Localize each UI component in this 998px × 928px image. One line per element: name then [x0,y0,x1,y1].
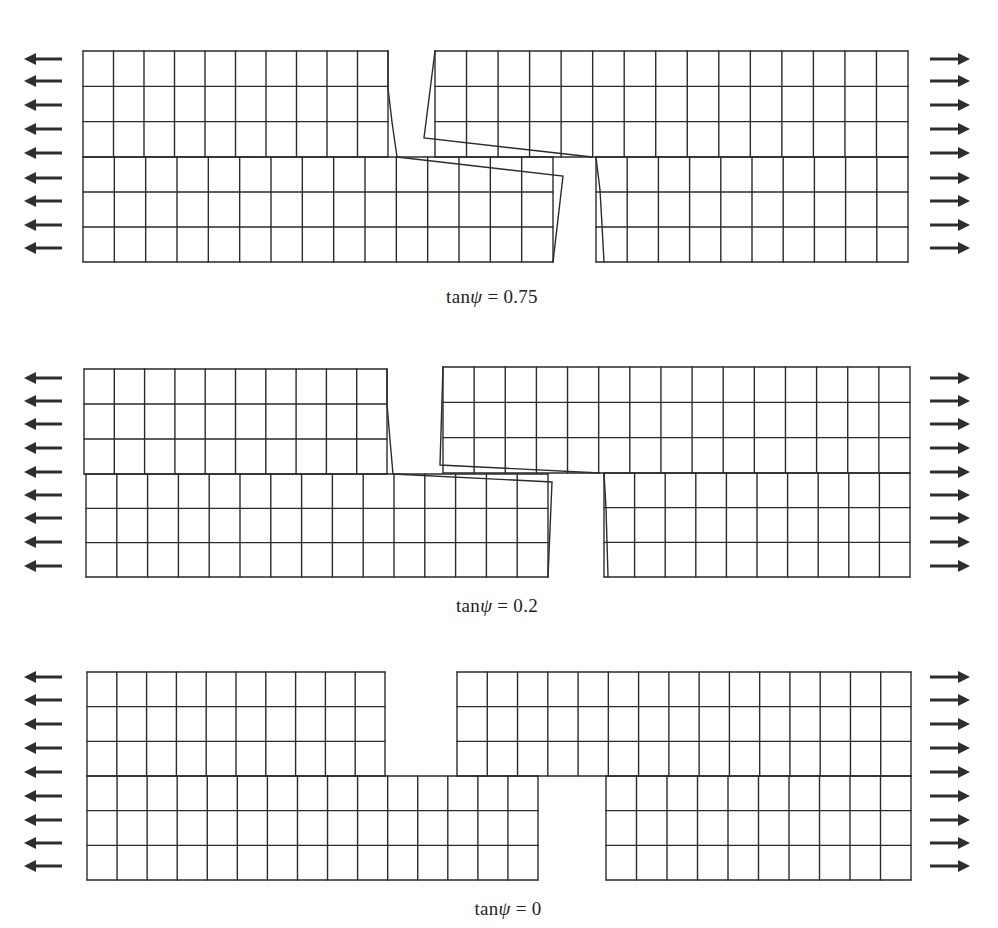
arrow-left-icon [24,418,36,430]
crack-tip-edge [397,157,563,262]
arrow-right-icon [958,489,970,501]
caption-symbol: ψ [470,286,482,307]
caption-symbol: ψ [499,898,511,919]
arrow-left-icon [24,860,36,872]
upper-right-block [424,51,908,157]
upper-left-block [83,51,397,157]
arrow-left-icon [24,99,36,111]
arrow-left-icon [24,123,36,135]
upper-left-block [87,672,385,776]
caption-symbol: ψ [480,595,492,616]
arrow-left-icon [24,718,36,730]
arrow-left-icon [24,766,36,778]
arrow-right-icon [958,442,970,454]
arrow-left-icon [24,395,36,407]
arrow-left-icon [24,75,36,87]
crack-tip-edge [393,474,552,577]
arrow-right-icon [958,53,970,65]
arrow-left-icon [24,372,36,384]
crack-tip-edge [440,367,600,473]
lower-left-block [83,157,563,262]
arrow-right-icon [958,671,970,683]
panel-3-load-arrows [24,671,970,872]
arrow-left-icon [24,694,36,706]
arrow-left-icon [24,536,36,548]
caption-prefix: tan [446,286,470,307]
arrow-right-icon [958,219,970,231]
panel-2 [84,367,910,577]
crack-face-edge [388,51,397,157]
arrow-right-icon [958,372,970,384]
lower-left-block [86,474,552,577]
arrow-right-icon [958,560,970,572]
caption-panel-1: tanψ = 0.75 [446,286,538,308]
arrow-right-icon [958,742,970,754]
arrow-right-icon [958,694,970,706]
arrow-left-icon [24,147,36,159]
crack-tip-edge [424,51,592,157]
arrow-right-icon [958,147,970,159]
caption-value: = 0.2 [492,595,538,616]
arrow-left-icon [24,512,36,524]
arrow-right-icon [958,837,970,849]
upper-left-block [84,369,393,474]
caption-panel-3: tanψ = 0 [474,898,541,920]
lower-right-block [606,776,911,880]
arrow-right-icon [958,512,970,524]
arrow-right-icon [958,172,970,184]
caption-prefix: tan [456,595,480,616]
crack-face-edge [596,157,604,262]
arrow-left-icon [24,53,36,65]
lower-right-block [604,473,910,577]
arrow-right-icon [958,75,970,87]
arrow-right-icon [958,195,970,207]
arrow-right-icon [958,418,970,430]
arrow-right-icon [958,860,970,872]
arrow-left-icon [24,195,36,207]
arrow-right-icon [958,718,970,730]
mesh-diagram [0,0,998,928]
panel-1-load-arrows [24,53,970,254]
crack-face-edge [387,369,393,474]
crack-mesh-figure: tanψ = 0.75 tanψ = 0.2 tanψ = 0 [0,0,998,928]
arrow-right-icon [958,766,970,778]
lower-left-block [87,776,538,880]
lower-right-block [596,157,908,262]
arrow-right-icon [958,123,970,135]
arrow-right-icon [958,466,970,478]
arrow-right-icon [958,814,970,826]
arrow-left-icon [24,442,36,454]
arrow-left-icon [24,742,36,754]
arrow-left-icon [24,837,36,849]
caption-value: = 0.75 [482,286,538,307]
arrow-left-icon [24,466,36,478]
panel-3 [87,672,911,880]
caption-prefix: tan [474,898,498,919]
arrow-left-icon [24,219,36,231]
arrow-right-icon [958,99,970,111]
panel-1 [83,51,908,262]
arrow-right-icon [958,242,970,254]
arrow-right-icon [958,395,970,407]
arrow-right-icon [958,536,970,548]
upper-right-block [440,367,910,473]
arrow-left-icon [24,560,36,572]
arrow-left-icon [24,489,36,501]
arrow-left-icon [24,790,36,802]
arrow-left-icon [24,814,36,826]
arrow-left-icon [24,671,36,683]
upper-right-block [457,672,911,776]
arrow-right-icon [958,790,970,802]
arrow-left-icon [24,172,36,184]
caption-panel-2: tanψ = 0.2 [456,595,538,617]
arrow-left-icon [24,242,36,254]
caption-value: = 0 [511,898,542,919]
